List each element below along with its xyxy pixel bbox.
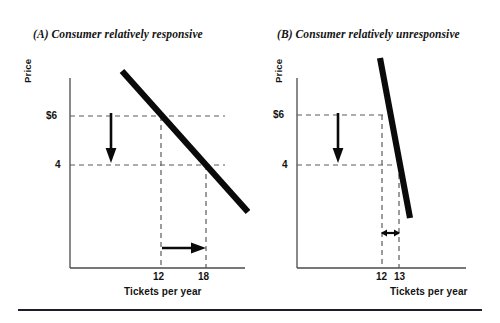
panel-a-ytick-4: 4 [55,159,61,170]
panel-a: (A) Consumer relatively responsive [0,0,250,323]
figure-container: (A) Consumer relatively responsive [0,0,500,323]
panel-b-quantity-double-arrow [381,230,400,237]
panel-a-price-down-arrow [106,113,117,163]
panel-a-ytick-6: $6 [46,110,57,121]
panel-a-quantity-right-arrow [162,243,206,254]
panel-b-y-axis-label: Price [273,59,284,83]
panel-b-ytick-4: 4 [282,159,288,170]
panel-b-demand-curve [380,58,410,218]
panel-b-xtick-12: 12 [376,271,387,282]
panel-b: (B) Consumer relatively unresponsive [250,0,500,323]
panel-b-x-axis-label: Tickets per year [390,286,468,297]
panel-a-y-axis-label: Price [22,59,33,83]
panel-b-xtick-13: 13 [394,271,405,282]
bottom-divider-rule [18,309,482,311]
panel-a-x-axis-label: Tickets per year [124,286,202,297]
panel-a-xtick-18: 18 [198,271,209,282]
panel-b-price-down-arrow [333,113,344,163]
panel-a-plot [0,0,250,323]
panel-a-xtick-12: 12 [153,271,164,282]
panel-b-ytick-6: $6 [273,109,284,120]
panel-a-demand-curve [122,71,248,212]
